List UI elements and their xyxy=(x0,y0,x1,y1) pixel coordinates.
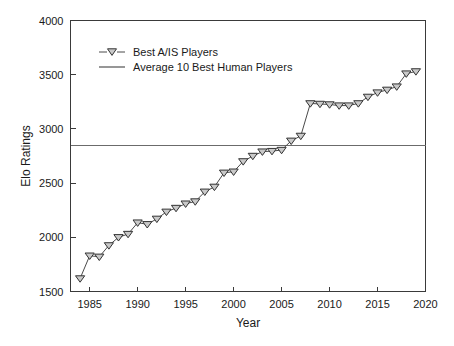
data-point-1986 xyxy=(95,254,104,260)
data-point-1999 xyxy=(219,170,228,176)
x-tick-label-2015: 2015 xyxy=(365,298,389,310)
legend-item-average-human-players: Average 10 Best Human Players xyxy=(99,61,293,73)
y-axis-title: Elo Ratings xyxy=(19,125,33,186)
elo-ratings-chart: 150020002500300035004000 198519901995200… xyxy=(0,0,454,346)
y-tick-label-2000: 2000 xyxy=(39,231,63,243)
x-tick-label-2010: 2010 xyxy=(317,298,341,310)
x-tick-label-2020: 2020 xyxy=(413,298,437,310)
data-point-2017 xyxy=(392,84,401,90)
x-axis: 19851990199520002005201020152020 xyxy=(77,287,437,310)
data-point-1987 xyxy=(104,243,113,249)
triangle-down-marker-icon xyxy=(108,49,117,56)
data-point-1994 xyxy=(171,205,180,211)
x-tick-label-1995: 1995 xyxy=(173,298,197,310)
legend-item-best-ais-players: Best A/IS Players xyxy=(99,46,218,58)
data-point-2003 xyxy=(258,149,267,155)
data-point-2018 xyxy=(402,71,411,77)
legend-label-best-ais-players: Best A/IS Players xyxy=(133,46,218,58)
x-tick-label-1985: 1985 xyxy=(77,298,101,310)
y-tick-label-1500: 1500 xyxy=(39,286,63,298)
legend-label-average-human-players: Average 10 Best Human Players xyxy=(133,61,293,73)
y-tick-label-3000: 3000 xyxy=(39,123,63,135)
data-point-2015 xyxy=(373,90,382,96)
y-tick-label-2500: 2500 xyxy=(39,177,63,189)
data-point-2002 xyxy=(248,153,257,159)
x-tick-label-1990: 1990 xyxy=(125,298,149,310)
x-tick-label-2005: 2005 xyxy=(269,298,293,310)
legend: Best A/IS Players Average 10 Best Human … xyxy=(99,46,293,73)
data-point-2007 xyxy=(296,133,305,139)
x-tick-label-2000: 2000 xyxy=(221,298,245,310)
data-point-2012 xyxy=(344,103,353,109)
ai-series xyxy=(80,71,416,278)
data-point-1995 xyxy=(181,201,190,207)
series-polyline xyxy=(80,71,416,278)
data-point-1989 xyxy=(123,231,132,237)
ai-series-markers xyxy=(75,69,420,282)
y-tick-label-4000: 4000 xyxy=(39,15,63,27)
x-axis-title: Year xyxy=(236,316,260,330)
data-point-1991 xyxy=(143,222,152,228)
data-point-1984 xyxy=(75,276,84,282)
data-point-1998 xyxy=(210,184,219,190)
chart-svg: 150020002500300035004000 198519901995200… xyxy=(0,0,454,346)
y-tick-label-3500: 3500 xyxy=(39,69,63,81)
data-point-1992 xyxy=(152,216,161,222)
data-point-2011 xyxy=(335,103,344,109)
